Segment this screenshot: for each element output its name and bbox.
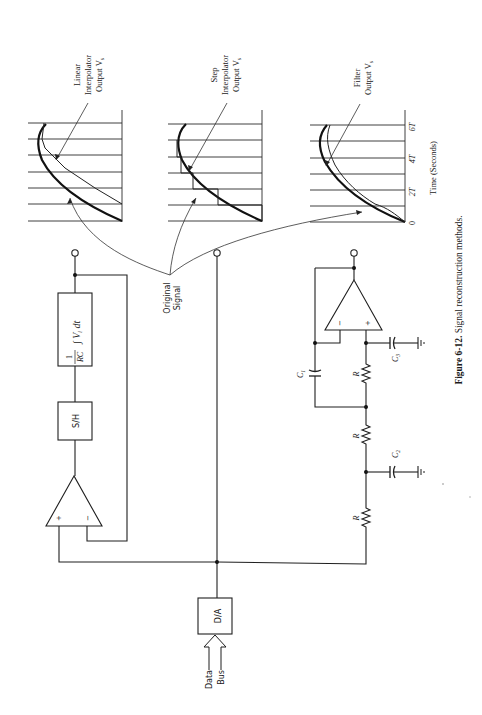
da-label: D/A bbox=[214, 608, 223, 623]
svg-text:Output Vs: Output Vs bbox=[94, 58, 105, 92]
plot-titles: Linear Interpolator Output Vs Step Inter… bbox=[72, 55, 374, 95]
svg-text:−: − bbox=[84, 515, 92, 521]
filter-output-terminal bbox=[351, 250, 357, 256]
svg-text:R: R bbox=[352, 433, 361, 439]
data-bus-label: Data Bus bbox=[205, 670, 226, 689]
title-leaders bbox=[55, 103, 360, 171]
opamp-triangle bbox=[325, 280, 382, 330]
tick-2t: 2T bbox=[408, 187, 417, 196]
svg-text:C2: C2 bbox=[391, 450, 401, 458]
original-signal-curve bbox=[320, 125, 405, 222]
step-interpolator-curve bbox=[218, 189, 262, 221]
resistor-r-icon bbox=[362, 505, 370, 530]
filter-circuit: R C2 R C1 R C3 bbox=[217, 250, 424, 564]
svg-text:+: + bbox=[55, 515, 63, 521]
svg-text:Bus: Bus bbox=[217, 670, 226, 685]
linear-plot-title: Linear Interpolator Output Vs bbox=[72, 55, 105, 95]
svg-text:Interpolator: Interpolator bbox=[220, 55, 230, 95]
svg-text:Filter: Filter bbox=[352, 69, 362, 88]
svg-text:Interpolator: Interpolator bbox=[83, 55, 93, 95]
svg-text:+: + bbox=[364, 320, 372, 326]
linear-interpolator-circuit: 1 RC ∫ Vi dt S/H + − bbox=[46, 250, 217, 562]
svg-text:Step: Step bbox=[209, 67, 219, 82]
svg-text:Output Vs: Output Vs bbox=[363, 61, 374, 95]
plot-step-interpolator bbox=[168, 110, 262, 222]
tick-6t: 6T bbox=[408, 122, 417, 131]
svg-text:C3: C3 bbox=[391, 354, 401, 362]
svg-text:R: R bbox=[352, 515, 361, 521]
plot-filter-output: 6T 4T 2T 0 Time (Seconds) bbox=[310, 110, 438, 225]
figure-caption: Figure 6-12. Signal reconstruction metho… bbox=[454, 215, 464, 384]
step-output-terminal bbox=[214, 250, 220, 256]
svg-text:Signal: Signal bbox=[173, 286, 182, 311]
svg-text:Linear: Linear bbox=[72, 64, 82, 86]
tick-4t: 4T bbox=[408, 154, 417, 163]
svg-text:RC: RC bbox=[76, 351, 85, 363]
svg-text:C1: C1 bbox=[296, 370, 306, 378]
signal-reconstruction-figure: 1 RC ∫ Vi dt S/H + − D/A Data Bus bbox=[0, 0, 482, 715]
linear-output-terminal bbox=[72, 250, 78, 256]
tick-0: 0 bbox=[408, 221, 417, 225]
svg-text:Output Vs: Output Vs bbox=[231, 58, 242, 92]
svg-text:Figure 6-12. Signal reconstru: Figure 6-12. Signal reconstruction metho… bbox=[454, 215, 464, 384]
svg-text:∫ Vi dt: ∫ Vi dt bbox=[71, 320, 83, 345]
svg-text:−: − bbox=[336, 320, 344, 326]
data-bus-arrow-icon bbox=[204, 635, 226, 670]
step-plot-title: Step Interpolator Output Vs bbox=[209, 55, 242, 95]
svg-text:1: 1 bbox=[65, 355, 74, 359]
resistor-r-icon bbox=[362, 361, 370, 386]
filter-output-curve bbox=[328, 125, 405, 222]
resistor-r-icon bbox=[362, 422, 370, 447]
filter-plot-title: Filter Output Vs bbox=[352, 61, 374, 95]
step-path-and-da: D/A Data Bus bbox=[198, 250, 232, 689]
svg-text:R: R bbox=[352, 371, 361, 377]
x-axis-label: Time (Seconds) bbox=[428, 141, 438, 195]
linear-interpolator-curve bbox=[42, 123, 122, 204]
svg-text:Data: Data bbox=[205, 670, 214, 689]
sample-hold-label: S/H bbox=[72, 414, 81, 428]
svg-text:Original: Original bbox=[163, 282, 172, 313]
